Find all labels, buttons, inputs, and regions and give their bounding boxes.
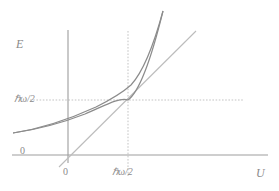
figure-container: E U ℏω/2 0 ℏω/2 0 <box>0 0 279 191</box>
y-tick-hbar-omega-over-2: ℏω/2 <box>14 93 35 104</box>
x-tick-hbar-omega-over-2: ℏω/2 <box>112 166 133 177</box>
energy-curve-upper <box>13 11 163 133</box>
plot-canvas <box>0 0 279 191</box>
x-axis-label: U <box>256 166 265 181</box>
x-tick-zero: 0 <box>63 166 68 177</box>
y-tick-zero: 0 <box>20 145 25 156</box>
y-axis-label: E <box>16 37 24 52</box>
